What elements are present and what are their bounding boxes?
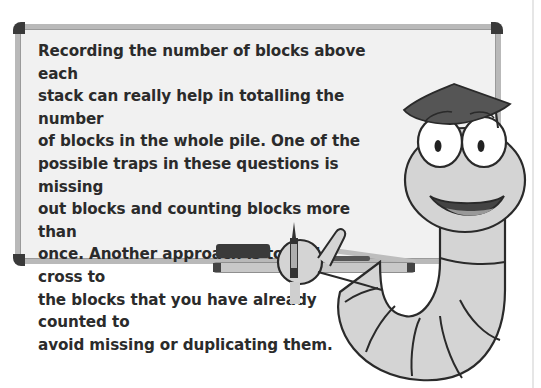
board-corner [491,22,503,34]
board-corner [13,22,25,34]
tray-end-cap [213,263,221,272]
tip-line: Recording the number of blocks above eac… [38,40,368,85]
board-corner [13,254,25,266]
worm-mascot-icon [250,80,540,388]
